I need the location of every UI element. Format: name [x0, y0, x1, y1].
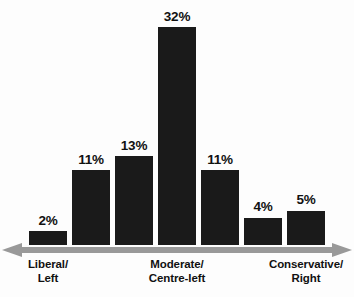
axis-label-conservative-right: Conservative/ Right: [269, 258, 343, 285]
axis-label-line2: Centre-left: [149, 272, 205, 286]
bar-group-4: 32%: [157, 0, 197, 245]
bar-rect: [158, 27, 196, 245]
axis-label-moderate-centre-left: Moderate/ Centre-left: [149, 258, 205, 285]
bar-series: 2% 11% 13% 32% 11% 4%: [28, 0, 326, 245]
bar-group-2: 11%: [71, 0, 111, 245]
bar-value-label: 4%: [253, 200, 272, 214]
bar-value-label: 13%: [121, 139, 147, 153]
axis-label-liberal-left: Liberal/ Left: [28, 258, 68, 285]
bar-value-label: 5%: [296, 193, 315, 207]
x-axis-tick-labels: Liberal/ Left Moderate/ Centre-left Cons…: [0, 258, 354, 297]
double-arrow-icon: [0, 243, 354, 257]
bar-group-7: 5%: [286, 0, 326, 245]
axis-label-line1: Moderate/: [149, 258, 205, 272]
bar-value-label: 32%: [164, 10, 190, 24]
bar-value-label: 11%: [78, 153, 104, 167]
bar-group-5: 11%: [200, 0, 240, 245]
bar-group-1: 2%: [28, 0, 68, 245]
bar-rect: [287, 211, 325, 245]
bar-chart: 2% 11% 13% 32% 11% 4%: [0, 0, 354, 297]
bar-group-6: 4%: [243, 0, 283, 245]
bar-group-3: 13%: [114, 0, 154, 245]
axis-label-line1: Conservative/: [269, 258, 343, 272]
bar-value-label: 2%: [38, 214, 57, 228]
bar-rect: [115, 156, 153, 245]
axis-label-line2: Right: [269, 272, 343, 286]
bar-rect: [244, 218, 282, 245]
bar-value-label: 11%: [207, 153, 233, 167]
axis-label-line1: Liberal/: [28, 258, 68, 272]
x-axis-arrow: [0, 243, 354, 257]
bar-rect: [201, 170, 239, 245]
bar-rect: [72, 170, 110, 245]
plot-area: 2% 11% 13% 32% 11% 4%: [0, 0, 354, 245]
axis-label-line2: Left: [28, 272, 68, 286]
